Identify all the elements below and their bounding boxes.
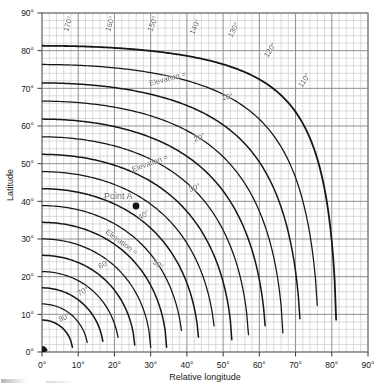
chart-container: 0°10°20°30°40°50°60°70°80°90° 0°10°20°30… [0,0,385,387]
y-axis-title: Latitude [5,169,15,201]
x-tick-60: 60° [253,360,266,370]
point-a-marker [133,203,140,210]
x-tick-90: 90° [362,360,375,370]
point-a-label: Point A [104,191,133,201]
y-tick-10: 10° [21,310,34,320]
x-tick-70: 70° [289,360,302,370]
x-axis-title: Relative longitude [169,372,241,382]
y-tick-0: 0° [26,347,34,357]
x-tick-40: 40° [180,360,193,370]
x-tick-20: 20° [108,360,121,370]
scan-artifact [1,379,27,383]
y-tick-50: 50° [21,159,34,169]
y-tick-30: 30° [21,234,34,244]
x-tick-50: 50° [217,360,230,370]
elevation-10-value: 10° [221,91,234,102]
y-tick-90: 90° [21,8,34,18]
y-tick-40: 40° [21,197,34,207]
x-tick-0: 0° [38,360,46,370]
x-tick-80: 80° [325,360,338,370]
x-tick-30: 30° [144,360,157,370]
look-angle-nomogram: 0°10°20°30°40°50°60°70°80°90° 0°10°20°30… [0,0,385,387]
x-tick-10: 10° [72,360,85,370]
scan-artifact-secondary [46,381,76,383]
y-tick-20: 20° [21,272,34,282]
y-tick-60: 60° [21,121,34,131]
y-tick-70: 70° [21,84,34,94]
y-tick-80: 80° [21,46,34,56]
